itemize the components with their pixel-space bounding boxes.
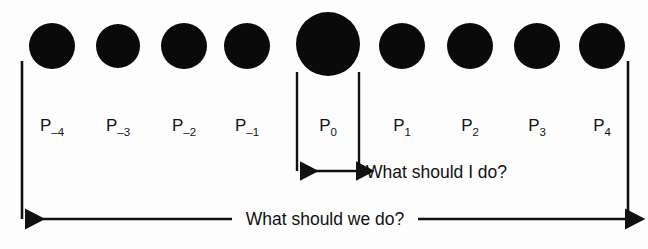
person-label-row: P–4 P–3 P–2 P–1 P0 P1 P2 P3 xyxy=(40,116,612,138)
person-label-base-p-minus-4: P xyxy=(40,116,51,135)
person-label-base-p-plus-4: P xyxy=(593,116,604,135)
person-label-base-p-plus-1: P xyxy=(393,116,404,135)
person-dot-p-minus-1 xyxy=(224,23,270,69)
person-label-base-p-plus-2: P xyxy=(461,116,472,135)
person-dot-p-minus-2 xyxy=(161,23,207,69)
person-dot-p-minus-4 xyxy=(29,23,75,69)
person-label-p-minus-1: P–1 xyxy=(235,116,259,138)
local-scope-label: What should I do? xyxy=(366,162,507,182)
person-label-sub-p-minus-1: –1 xyxy=(246,126,259,138)
person-label-sub-p-minus-4: –4 xyxy=(51,126,64,138)
local-scope-annotation: What should I do? xyxy=(300,162,507,182)
global-scope-label: What should we do? xyxy=(246,209,405,229)
person-dot-p-plus-4 xyxy=(579,23,625,69)
person-label-p-zero: P0 xyxy=(319,116,337,138)
person-label-p-minus-2: P–2 xyxy=(172,116,196,138)
person-label-sub-p-plus-2: 2 xyxy=(472,126,478,138)
person-label-base-p-minus-3: P xyxy=(106,116,117,135)
deliberation-diagram: P–4 P–3 P–2 P–1 P0 P1 P2 P3 xyxy=(0,0,648,249)
person-label-p-plus-2: P2 xyxy=(461,116,479,138)
person-label-sub-p-plus-4: 4 xyxy=(604,126,611,138)
diagram-canvas: P–4 P–3 P–2 P–1 P0 P1 P2 P3 xyxy=(0,0,648,249)
person-dot-p-plus-2 xyxy=(447,23,493,69)
person-dot-p-minus-3 xyxy=(96,24,140,68)
global-scope-annotation: What should we do? xyxy=(25,209,625,229)
person-label-sub-p-minus-2: –2 xyxy=(183,126,196,138)
person-label-base-p-zero: P xyxy=(319,116,330,135)
person-label-p-plus-1: P1 xyxy=(393,116,411,138)
bracket-rules xyxy=(22,61,628,219)
person-label-p-minus-4: P–4 xyxy=(40,116,65,138)
person-dot-p-plus-3 xyxy=(514,23,560,69)
person-label-p-minus-3: P–3 xyxy=(106,116,130,138)
person-label-base-p-plus-3: P xyxy=(528,116,539,135)
person-label-sub-p-plus-3: 3 xyxy=(539,126,545,138)
person-label-base-p-minus-1: P xyxy=(235,116,246,135)
person-label-sub-p-plus-1: 1 xyxy=(404,126,410,138)
person-label-base-p-minus-2: P xyxy=(172,116,183,135)
person-dot-p-zero xyxy=(296,12,360,76)
person-label-p-plus-3: P3 xyxy=(528,116,546,138)
person-label-p-plus-4: P4 xyxy=(593,116,611,138)
person-dot-row xyxy=(29,12,625,76)
person-label-sub-p-zero: 0 xyxy=(330,126,336,138)
person-label-sub-p-minus-3: –3 xyxy=(117,126,130,138)
person-dot-p-plus-1 xyxy=(379,23,425,69)
